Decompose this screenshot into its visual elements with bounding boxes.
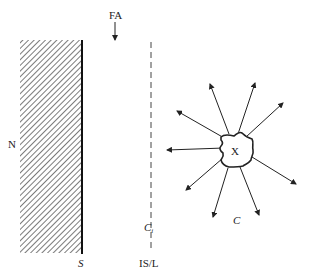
arrow-right-up-icon xyxy=(246,103,283,137)
diagram-canvas: FA N S Ci IS/L X C xyxy=(0,0,309,276)
ci-label: Ci xyxy=(144,221,153,235)
arrow-down-left-icon xyxy=(213,168,228,217)
arrow-upper-left-icon xyxy=(177,111,226,139)
arrow-down-right-icon xyxy=(240,167,259,215)
s-label: S xyxy=(78,257,84,269)
isl-label: IS/L xyxy=(139,257,159,269)
arrow-right-down-icon xyxy=(252,157,296,184)
arrow-left-icon xyxy=(167,148,224,150)
n-label: N xyxy=(8,138,16,150)
arrow-up-right-icon xyxy=(238,83,255,134)
arrow-up-left-icon xyxy=(210,84,229,134)
arrow-lower-left-icon xyxy=(186,158,223,190)
c-label: C xyxy=(233,214,241,226)
hatched-surface xyxy=(20,40,82,254)
x-label: X xyxy=(231,145,239,157)
fa-label: FA xyxy=(109,9,122,21)
